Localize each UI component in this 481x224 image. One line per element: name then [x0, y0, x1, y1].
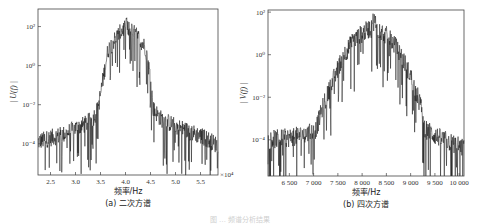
x-tick-label: 4.5 — [146, 178, 155, 186]
x-tick-label: 8 500 — [379, 179, 395, 187]
x-tick-label: 3.0 — [71, 178, 80, 186]
x-tick-label: 4.0 — [121, 178, 130, 186]
subfigure-caption-b: (b) 四次方谱 — [343, 199, 389, 209]
y-tick-label: 10⁻⁴ — [252, 136, 266, 144]
figure-caption: 图 … 频谱分析结果 — [210, 215, 270, 224]
x-tick-label: 5.0 — [171, 178, 180, 186]
y-tick-label: 10⁻² — [252, 94, 265, 102]
spectrum-trace-a — [38, 18, 218, 175]
x-tick-label: 3.5 — [96, 178, 105, 186]
chart-panel-b: 6 5007 0007 5008 0008 5009 0009 50010 00… — [239, 9, 469, 209]
x-tick-label: 7 000 — [306, 179, 322, 187]
x-tick-label: 7 500 — [330, 179, 346, 187]
x-tick-label: 10 000 — [450, 179, 470, 187]
y-tick-label: 10⁰ — [255, 51, 265, 59]
x-tick-label: 8 000 — [354, 179, 370, 187]
x-axis-label-b: 频率/Hz — [352, 187, 381, 197]
y-tick-label: 10⁻² — [22, 101, 35, 109]
x-tick-label: 9 500 — [427, 179, 443, 187]
x-axis-label-a: 频率/Hz — [114, 186, 143, 196]
y-tick-label: 10² — [256, 9, 265, 17]
subfigure-caption-a: (a) 二次方谱 — [105, 198, 151, 208]
chart-panel-a: 2.53.03.54.04.55.05.510²10⁰10⁻²10⁻⁴ | U(… — [9, 9, 234, 208]
x-multiplier-a: ×10⁴ — [220, 171, 234, 179]
spectrum-trace-b — [268, 14, 464, 176]
x-tick-label: 5.5 — [196, 178, 205, 186]
y-axis-label-a: | U(f) | — [9, 81, 18, 103]
x-tick-label: 6 500 — [281, 179, 297, 187]
plot-frame-b — [268, 10, 464, 176]
x-tick-label: 9 000 — [403, 179, 419, 187]
y-tick-label: 10² — [26, 23, 35, 31]
figure: 2.53.03.54.04.55.05.510²10⁰10⁻²10⁻⁴ | U(… — [0, 0, 481, 224]
x-tick-label: 2.5 — [46, 178, 55, 186]
y-axis-label-b: | V(f) | — [239, 83, 248, 104]
y-tick-label: 10⁻⁴ — [22, 140, 36, 148]
y-tick-label: 10⁰ — [25, 62, 35, 70]
